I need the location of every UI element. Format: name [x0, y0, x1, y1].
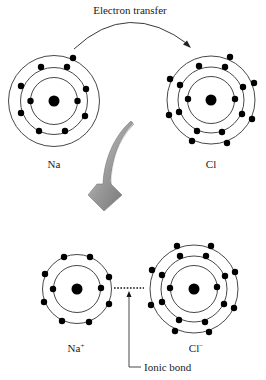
nucleus [49, 96, 60, 107]
sodium-atom [9, 55, 100, 147]
cl-label: Cl [206, 158, 216, 170]
electron-transfer-label: Electron transfer [93, 4, 167, 16]
reaction-arrow [88, 121, 134, 211]
chloride-ion [148, 243, 238, 335]
electron-transfer-arrow [74, 22, 191, 49]
na-ion-label: Na+ [68, 342, 85, 354]
cl-ion-label: Cl− [189, 342, 203, 354]
nucleus [72, 284, 83, 295]
chlorine-atom [166, 54, 257, 146]
nucleus [189, 284, 200, 295]
na-label: Na [48, 158, 61, 170]
nucleus [206, 95, 217, 106]
ionic-bond-label: Ionic bond [144, 361, 192, 373]
ionic-bond [114, 288, 144, 367]
ionic-bond-diagram: Electron transfer Na [0, 0, 266, 380]
sodium-ion [41, 254, 112, 325]
